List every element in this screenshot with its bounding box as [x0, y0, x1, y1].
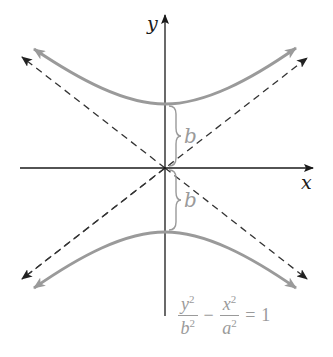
fraction-x2-over-a2: x2 a2 [220, 294, 240, 337]
hyperbola-upper-branch-left [34, 49, 165, 104]
asymptote-negative-slope-tail [165, 168, 307, 279]
x-axis-label: x [301, 171, 312, 193]
asymptote-positive-slope-tail [22, 168, 165, 279]
fraction-y2-over-b2: y2 b2 [178, 294, 198, 337]
hyperbola-diagram: y x b b [0, 0, 333, 357]
upper-b-label: b [184, 124, 197, 148]
hyperbola-upper-branch-right [165, 48, 296, 104]
lower-b-label: b [184, 188, 197, 212]
hyperbola-equation: y2 b2 − x2 a2 = 1 [178, 294, 270, 337]
minus-operator: − [204, 305, 214, 326]
y-axis-label: y [146, 12, 158, 34]
equation-rhs: 1 [261, 305, 270, 326]
hyperbola-lower-branch-left [34, 232, 165, 288]
asymptote-negative-slope [22, 57, 165, 168]
equals-sign: = [245, 305, 255, 326]
hyperbola-lower-branch-right [165, 232, 296, 288]
